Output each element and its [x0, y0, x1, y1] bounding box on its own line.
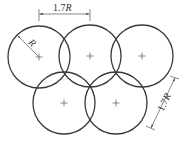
circle-2-center-mark-icon [87, 53, 94, 60]
radius-label: R [26, 36, 39, 49]
side-dimension-extension-bottom [146, 126, 155, 130]
circle-4-center-mark-icon [61, 100, 68, 107]
circle-5-center-mark-icon [113, 100, 120, 107]
side-dimension-label: 1.7R [155, 91, 173, 113]
overlapping-circles-diagram: 1.7R R 1.7R [0, 0, 183, 142]
circle-3-center-mark-icon [139, 53, 146, 60]
top-dimension-label: 1.7R [53, 2, 72, 13]
center-marks-group [36, 53, 146, 107]
